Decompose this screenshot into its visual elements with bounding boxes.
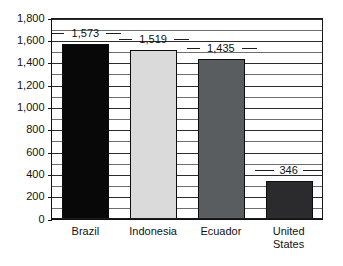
y-tick-label-400: 400 (26, 168, 44, 180)
bar-ecuador[interactable] (199, 60, 245, 220)
y-tick-label-600: 600 (26, 146, 44, 158)
y-tick-label-0: 0 (38, 213, 44, 225)
y-tick-label-1400: 1,400 (17, 56, 45, 68)
category-label-brazil: Brazil (72, 225, 100, 237)
value-label-indonesia: 1,519 (139, 33, 167, 45)
value-label-ecuador: 1,435 (207, 42, 235, 54)
bar-united-states[interactable] (267, 182, 313, 220)
value-label-brazil: 1,573 (72, 27, 100, 39)
category-label-united-states-line2: States (273, 238, 305, 250)
y-tick-label-1000: 1,000 (17, 101, 45, 113)
bar-indonesia[interactable] (131, 51, 177, 220)
category-label-ecuador: Ecuador (200, 225, 241, 237)
bar-chart: 02004006008001,0001,2001,4001,6001,800 B… (0, 0, 343, 266)
y-tick-label-1600: 1,600 (17, 34, 45, 46)
category-label-united-states-line1: United (273, 225, 305, 237)
y-tick-label-800: 800 (26, 123, 44, 135)
y-tick-label-200: 200 (26, 190, 44, 202)
chart-canvas: 02004006008001,0001,2001,4001,6001,800 B… (0, 0, 343, 266)
bar-brazil[interactable] (63, 45, 109, 220)
value-label-united-states: 346 (279, 164, 297, 176)
category-label-indonesia: Indonesia (129, 225, 178, 237)
y-tick-label-1200: 1,200 (17, 79, 45, 91)
y-tick-label-1800: 1,800 (17, 12, 45, 24)
